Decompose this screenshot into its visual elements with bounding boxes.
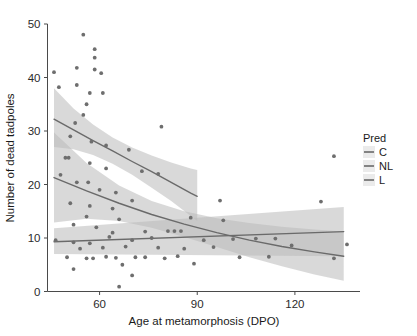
data-point: [99, 71, 103, 75]
data-point: [88, 161, 92, 165]
data-point: [93, 56, 97, 60]
data-point: [54, 238, 58, 242]
y-tick-label: 40: [28, 72, 41, 84]
data-point: [133, 255, 137, 259]
data-point: [156, 246, 160, 250]
data-point: [85, 215, 89, 219]
data-point: [75, 83, 79, 87]
data-point: [88, 91, 92, 95]
data-point: [75, 180, 79, 184]
data-point: [85, 256, 89, 260]
data-point: [345, 243, 349, 247]
data-point: [202, 238, 206, 242]
data-point: [59, 173, 63, 177]
data-point: [93, 68, 97, 72]
data-point: [86, 180, 90, 184]
legend-label-C: C: [379, 146, 387, 158]
data-point: [72, 223, 76, 227]
data-point: [124, 245, 128, 249]
scatter-plot-figure: 6090120 01020304050 Age at metamorphosis…: [0, 0, 417, 336]
data-point: [182, 247, 186, 251]
data-point: [57, 85, 61, 89]
data-point: [68, 134, 72, 138]
data-point: [52, 70, 56, 74]
data-point: [176, 254, 180, 258]
data-point: [221, 218, 225, 222]
data-point: [231, 237, 235, 241]
data-point: [107, 235, 111, 239]
data-point: [72, 240, 76, 244]
legend-label-L: L: [379, 174, 385, 186]
data-point: [130, 199, 134, 203]
data-point: [111, 207, 115, 211]
data-point: [114, 256, 118, 260]
data-point: [101, 246, 105, 250]
legend-label-NL: NL: [379, 160, 393, 172]
data-point: [332, 154, 336, 158]
data-point: [98, 188, 102, 192]
data-point: [114, 191, 118, 195]
x-axis-title: Age at metamorphosis (DPO): [129, 315, 280, 327]
data-point: [166, 229, 170, 233]
data-point: [91, 256, 95, 260]
legend-title: Pred: [363, 132, 386, 144]
data-point: [111, 231, 115, 235]
data-point: [90, 140, 94, 144]
data-point: [156, 172, 160, 176]
chart-root: 6090120 01020304050 Age at metamorphosis…: [0, 0, 417, 336]
x-tick-label: 120: [285, 298, 304, 310]
data-point: [319, 200, 323, 204]
data-point: [65, 255, 69, 259]
data-point: [85, 102, 89, 106]
data-point: [254, 237, 258, 241]
data-point: [189, 216, 193, 220]
x-tick-label: 90: [191, 298, 204, 310]
data-point: [67, 156, 71, 160]
data-point: [94, 225, 98, 229]
data-point: [117, 285, 121, 289]
data-point: [81, 113, 85, 117]
data-point: [218, 199, 222, 203]
data-point: [150, 236, 154, 240]
data-point: [104, 144, 108, 148]
data-point: [160, 125, 164, 129]
data-point: [130, 274, 134, 278]
data-point: [120, 263, 124, 267]
y-tick-label: 30: [28, 125, 41, 137]
data-point: [75, 66, 79, 70]
data-point: [273, 237, 277, 241]
data-point: [101, 91, 105, 95]
data-point: [143, 230, 147, 234]
data-point: [192, 262, 196, 266]
data-point: [143, 255, 147, 259]
y-tick-label: 0: [34, 286, 40, 298]
data-point: [104, 255, 108, 259]
data-point: [81, 33, 85, 37]
data-point: [163, 256, 167, 260]
data-point: [140, 169, 144, 173]
y-tick-label: 10: [28, 232, 41, 244]
data-point: [173, 229, 177, 233]
data-point: [68, 201, 72, 205]
data-point: [117, 217, 121, 221]
data-point: [179, 229, 183, 233]
data-point: [73, 121, 77, 125]
y-tick-label: 20: [28, 179, 41, 191]
data-point: [88, 241, 92, 245]
data-point: [64, 156, 68, 160]
y-axis-title: Number of dead tadpoles: [4, 93, 16, 222]
data-point: [93, 47, 97, 51]
data-point: [332, 256, 336, 260]
data-point: [88, 204, 92, 208]
data-point: [78, 247, 82, 251]
data-point: [238, 255, 242, 259]
data-point: [130, 238, 134, 242]
data-point: [104, 167, 108, 171]
data-point: [290, 244, 294, 248]
data-point: [212, 245, 216, 249]
data-point: [127, 148, 131, 152]
data-point: [72, 267, 76, 271]
x-tick-label: 60: [93, 298, 106, 310]
data-point: [267, 255, 271, 259]
y-tick-label: 50: [28, 18, 41, 30]
